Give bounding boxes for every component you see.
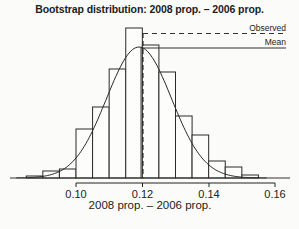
observed-legend-label: Observed xyxy=(249,23,286,33)
histogram-plot: Observed Mean 0.10 0.12 0.14 0.16 xyxy=(0,0,299,229)
x-axis: 0.10 0.12 0.14 0.16 xyxy=(65,183,285,200)
x-axis-label: 2008 prop. – 2006 prop. xyxy=(60,199,240,211)
histogram-bar xyxy=(176,116,193,178)
histogram-bar xyxy=(93,107,110,178)
histogram-bar xyxy=(126,28,143,178)
histogram-bars xyxy=(26,28,258,178)
mean-legend-label: Mean xyxy=(265,37,287,47)
histogram-bar xyxy=(209,161,226,178)
x-tick-label: 0.16 xyxy=(264,188,285,200)
